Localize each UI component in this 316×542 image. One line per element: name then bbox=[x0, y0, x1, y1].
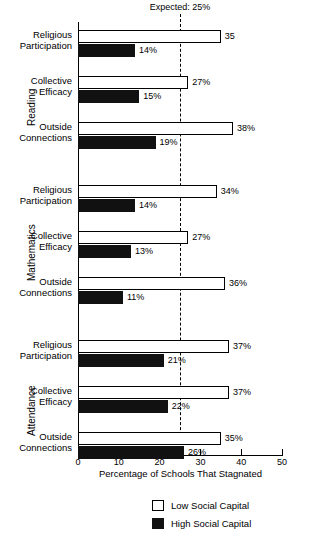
category-label-line1: Religious bbox=[0, 339, 72, 350]
bar-value-high: 13% bbox=[131, 245, 153, 258]
bar-high-social-capital bbox=[78, 199, 135, 212]
bar-high-social-capital bbox=[78, 400, 168, 413]
bar-value-high: 21% bbox=[164, 354, 186, 367]
bar-value-high: 15% bbox=[139, 90, 161, 103]
legend-item-high: High Social Capital bbox=[152, 517, 251, 529]
category-label: ReligiousParticipation bbox=[0, 184, 72, 206]
category-label-line2: Participation bbox=[0, 40, 72, 51]
plot-area: Expected: 25% 01020304050 3514%27%15%38%… bbox=[0, 0, 316, 542]
chart-legend: Low Social Capital High Social Capital bbox=[152, 499, 251, 535]
category-label-line1: Religious bbox=[0, 29, 72, 40]
legend-swatch-high-icon bbox=[152, 518, 164, 529]
bar-high-social-capital bbox=[78, 44, 135, 57]
bar-chart: Expected: 25% 01020304050 3514%27%15%38%… bbox=[0, 0, 316, 542]
bar-value-low: 38% bbox=[233, 122, 255, 135]
bar-value-low: 35% bbox=[221, 432, 243, 445]
category-label-line1: Collective bbox=[0, 75, 72, 86]
expected-reference-label: Expected: 25% bbox=[150, 2, 211, 13]
bar-value-high: 11% bbox=[123, 291, 144, 304]
bar-low-social-capital bbox=[78, 30, 221, 43]
bar-value-low: 36% bbox=[225, 277, 247, 290]
bar-low-social-capital bbox=[78, 340, 229, 353]
bar-value-high: 14% bbox=[135, 199, 157, 212]
group-label: Attendance bbox=[26, 385, 37, 436]
bar-low-social-capital bbox=[78, 76, 188, 89]
group-label: Reading bbox=[26, 88, 37, 125]
bar-value-high: 14% bbox=[135, 44, 157, 57]
bar-high-social-capital bbox=[78, 136, 156, 149]
category-label: ReligiousParticipation bbox=[0, 339, 72, 361]
bar-low-social-capital bbox=[78, 122, 233, 135]
category-label-line2: Connections bbox=[0, 442, 72, 453]
x-tick-label: 50 bbox=[277, 457, 287, 467]
x-axis-title: Percentage of Schools That Stagnated bbox=[78, 468, 283, 480]
bar-value-low: 34% bbox=[217, 185, 239, 198]
bar-high-social-capital bbox=[78, 354, 164, 367]
bar-low-social-capital bbox=[78, 231, 188, 244]
bar-high-social-capital bbox=[78, 90, 139, 103]
legend-swatch-low-icon bbox=[152, 500, 164, 511]
category-label: ReligiousParticipation bbox=[0, 29, 72, 51]
bar-value-low: 37% bbox=[229, 340, 251, 353]
category-label-line2: Participation bbox=[0, 195, 72, 206]
legend-label-high: High Social Capital bbox=[171, 518, 251, 529]
bar-value-low: 37% bbox=[229, 386, 251, 399]
bar-value-low: 27% bbox=[188, 231, 210, 244]
bar-low-social-capital bbox=[78, 386, 229, 399]
x-tick-label: 40 bbox=[236, 457, 246, 467]
bar-low-social-capital bbox=[78, 432, 221, 445]
bar-value-high: 26% bbox=[184, 446, 206, 459]
legend-label-low: Low Social Capital bbox=[171, 500, 249, 511]
bar-value-high: 22% bbox=[168, 400, 190, 413]
bar-high-social-capital bbox=[78, 446, 184, 459]
category-label-line2: Participation bbox=[0, 350, 72, 361]
x-tick-mark bbox=[282, 449, 283, 455]
bar-value-low: 35 bbox=[221, 30, 235, 43]
bar-high-social-capital bbox=[78, 291, 123, 304]
bar-low-social-capital bbox=[78, 277, 225, 290]
bar-low-social-capital bbox=[78, 185, 217, 198]
legend-item-low: Low Social Capital bbox=[152, 499, 251, 511]
group-label: Mathematics bbox=[26, 224, 37, 281]
bar-value-high: 19% bbox=[156, 136, 178, 149]
bar-value-low: 27% bbox=[188, 76, 210, 89]
x-tick-mark bbox=[241, 449, 242, 455]
category-label-line2: Connections bbox=[0, 287, 72, 298]
category-label-line2: Connections bbox=[0, 132, 72, 143]
category-label-line1: Religious bbox=[0, 184, 72, 195]
bar-high-social-capital bbox=[78, 245, 131, 258]
